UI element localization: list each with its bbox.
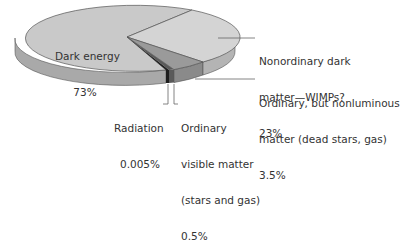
label-nonluminous-pct: 3.5% [259,169,400,181]
label-dark-energy-name: Dark energy [55,50,115,62]
label-wimps-line1: Nonordinary dark [259,55,351,67]
label-visible-line3: (stars and gas) [181,194,260,206]
label-nonluminous-line1: Ordinary, but nonluminous [259,97,400,109]
slice-side-radiation [166,70,169,83]
label-radiation-name: Radiation [114,122,160,134]
slice-side-visible-matter [169,70,174,83]
label-visible-line1: Ordinary [181,122,260,134]
label-dark-energy: Dark energy 73% [55,26,115,110]
label-dark-energy-pct: 73% [55,86,115,98]
leader-radiation [163,84,168,104]
leader-visible [174,84,178,104]
label-nonluminous: Ordinary, but nonluminous matter (dead s… [259,73,400,193]
label-nonluminous-line2: matter (dead stars, gas) [259,133,400,145]
label-visible-matter: Ordinary visible matter (stars and gas) … [181,98,260,240]
label-visible-pct: 0.5% [181,230,260,240]
label-visible-line2: visible matter [181,158,260,170]
label-radiation-pct: 0.005% [114,158,160,170]
label-radiation: Radiation 0.005% [114,98,160,182]
